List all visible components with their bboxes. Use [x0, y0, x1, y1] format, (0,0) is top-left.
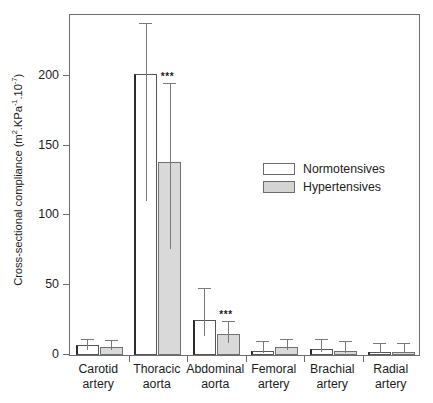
x-axis-label-line: Abdominal — [186, 362, 245, 377]
significance-marker: *** — [219, 310, 232, 320]
x-axis-label: Thoracicaorta — [128, 362, 187, 391]
y-tick-label: 100 — [38, 207, 59, 221]
significance-marker: *** — [161, 72, 174, 82]
error-bar-line — [87, 340, 88, 350]
legend-item: Hypertensives — [263, 178, 385, 195]
y-tick-label: 50 — [45, 277, 59, 291]
legend-label: Hypertensives — [303, 180, 381, 194]
x-axis-label: Brachialartery — [303, 362, 362, 391]
legend-swatch — [263, 163, 295, 175]
x-axis-label-line: Thoracic — [128, 362, 187, 377]
legend-item: Normotensives — [263, 160, 385, 177]
x-axis-label-line: Carotid — [69, 362, 128, 377]
error-bar-line — [170, 84, 171, 249]
x-axis-label-line: artery — [362, 377, 421, 392]
error-bar-line — [263, 342, 264, 352]
error-bar-cap — [139, 23, 152, 24]
x-axis-label-line: Radial — [362, 362, 421, 377]
y-axis-title-base1: Cross-sectional compliance (m — [12, 134, 24, 286]
error-bar-cap — [198, 288, 211, 289]
y-axis-title-sup1: 2 — [10, 130, 19, 134]
y-tick-label: 0 — [52, 347, 59, 361]
x-axis-label-line: artery — [303, 377, 362, 392]
x-axis-label: Radialartery — [362, 362, 421, 391]
y-tick: 0 — [63, 354, 70, 355]
x-axis-label-line: aorta — [128, 377, 187, 392]
x-tick — [246, 355, 247, 362]
x-tick — [304, 355, 305, 362]
error-bar-line — [345, 342, 346, 352]
y-axis-title-base3: .10 — [12, 84, 24, 99]
x-axis-label-line: artery — [69, 377, 128, 392]
y-tick: 200 — [63, 75, 70, 76]
x-tick — [363, 355, 364, 362]
error-bar-line — [321, 340, 322, 352]
error-bar-line — [111, 341, 112, 350]
x-axis-label-line: aorta — [186, 377, 245, 392]
y-axis-title: Cross-sectional compliance (m2.KPa-1.10-… — [0, 0, 34, 360]
error-bar-cap — [163, 83, 176, 84]
x-axis-label-line: Femoral — [245, 362, 304, 377]
error-bar-cap — [256, 341, 269, 342]
error-bar-cap — [280, 339, 293, 340]
x-axis-label: Abdominalaorta — [186, 362, 245, 391]
legend-swatch — [263, 181, 295, 193]
y-tick-label: 150 — [38, 138, 59, 152]
legend: NormotensivesHypertensives — [263, 160, 385, 196]
error-bar-cap — [81, 339, 94, 340]
error-bar-line — [380, 344, 381, 354]
error-bar-cap — [222, 321, 235, 322]
error-bar-line — [228, 322, 229, 344]
error-bar-line — [146, 24, 147, 201]
y-tick: 150 — [63, 145, 70, 146]
error-bar-line — [287, 340, 288, 351]
figure-bar-chart: Cross-sectional compliance (m2.KPa-1.10-… — [0, 0, 433, 403]
error-bar-cap — [105, 340, 118, 341]
y-tick-label: 200 — [38, 68, 59, 82]
y-axis-title-sup2: -1 — [10, 100, 19, 107]
error-bar-line — [404, 344, 405, 354]
error-bar-cap — [339, 341, 352, 342]
error-bar-cap — [397, 343, 410, 344]
y-tick: 100 — [63, 214, 70, 215]
error-bar-cap — [315, 339, 328, 340]
x-tick — [187, 355, 188, 362]
x-axis-label: Carotidartery — [69, 362, 128, 391]
legend-label: Normotensives — [303, 162, 385, 176]
error-bar-cap — [373, 343, 386, 344]
error-bar-line — [204, 289, 205, 335]
y-axis-title-sup3: -7 — [10, 78, 19, 85]
x-axis-label-line: artery — [245, 377, 304, 392]
y-tick: 50 — [63, 284, 70, 285]
x-axis-label-line: Brachial — [303, 362, 362, 377]
y-axis-title-text: Cross-sectional compliance (m2.KPa-1.10-… — [10, 74, 24, 286]
y-axis-title-base4: ) — [12, 74, 24, 78]
x-axis-label: Femoralartery — [245, 362, 304, 391]
x-tick — [129, 355, 130, 362]
y-axis-title-base2: .KPa — [12, 106, 24, 130]
